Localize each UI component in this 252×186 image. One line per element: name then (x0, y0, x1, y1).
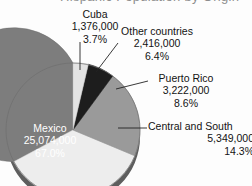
slice-label-central-and-south-name: Central and South (148, 120, 252, 132)
slice-label-puerto-rico-name: Puerto Rico (150, 72, 222, 84)
slice-label-puerto-rico-value: 3,222,000 (150, 84, 222, 96)
slice-label-central-and-south: Central and South 5,349,000 14.3% (148, 120, 252, 157)
slice-label-central-and-south-value: 5,349,000 (148, 132, 252, 144)
slice-label-other-countries-percent: 6.4% (118, 50, 196, 62)
leader-line-other-countries (96, 43, 118, 72)
slice-label-other-countries: Other countries 2,416,000 6.4% (118, 25, 196, 62)
slice-label-other-countries-value: 2,416,000 (118, 37, 196, 49)
pie-chart-figure: Hispanic Population by Origin (0, 0, 252, 186)
slice-label-mexico-name: Mexico (8, 122, 92, 134)
slice-label-puerto-rico-percent: 8.6% (150, 97, 222, 109)
slice-label-mexico-value: 25,074,000 (8, 134, 92, 146)
slice-label-mexico: Mexico 25,074,000 67.0% (8, 122, 92, 159)
slice-label-central-and-south-percent: 14.3% (148, 145, 252, 157)
slice-label-other-countries-name: Other countries (118, 25, 196, 37)
slice-label-mexico-percent: 67.0% (8, 147, 92, 159)
slice-label-puerto-rico: Puerto Rico 3,222,000 8.6% (150, 72, 222, 109)
slice-label-cuba-name: Cuba (58, 8, 132, 20)
